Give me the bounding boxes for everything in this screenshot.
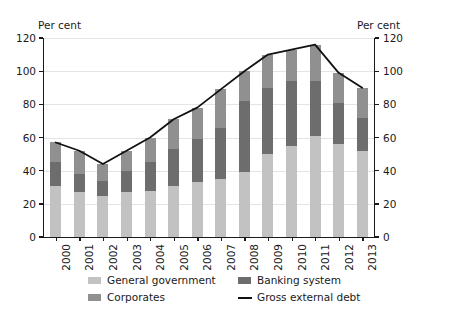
y-axis-tick-label: 60 [23, 133, 36, 144]
y-axis-tick [375, 137, 379, 138]
x-axis-tick [56, 237, 57, 241]
legend-swatch-icon [88, 294, 101, 301]
legend-label: General government [107, 275, 216, 286]
y-axis-left-unit-label: Per cent [38, 19, 81, 31]
y-axis-tick-label: 20 [383, 199, 396, 210]
x-axis-tick-label: 2013 [367, 244, 378, 271]
y-axis-tick-label: 80 [23, 99, 36, 110]
y-axis-tick-label: 40 [383, 166, 396, 177]
x-axis-tick-label: 2005 [179, 244, 190, 271]
x-axis-tick-label: 2000 [61, 244, 72, 271]
y-axis-tick [39, 236, 43, 237]
y-axis-tick [39, 137, 43, 138]
y-axis-tick [375, 37, 379, 38]
legend-label: Banking system [257, 275, 341, 286]
y-axis-tick-label: 80 [383, 99, 396, 110]
y-axis-tick-label: 20 [23, 199, 36, 210]
x-axis-tick [103, 237, 104, 241]
x-axis-tick-label: 2006 [202, 244, 213, 271]
x-axis-tick [315, 237, 316, 241]
x-axis-tick [174, 237, 175, 241]
y-axis-tick-label: 0 [383, 232, 390, 243]
legend-label: Gross external debt [257, 292, 360, 303]
x-axis-tick [221, 237, 222, 241]
x-axis-tick [197, 237, 198, 241]
legend-swatch-icon [88, 277, 101, 284]
x-axis-tick-label: 2010 [297, 244, 308, 271]
legend-line-icon [238, 297, 252, 299]
y-axis-tick [375, 71, 379, 72]
y-axis-tick [39, 170, 43, 171]
x-axis [43, 237, 375, 238]
legend-item[interactable]: Banking system [238, 272, 418, 289]
y-axis-tick [39, 104, 43, 105]
y-axis-tick [375, 203, 379, 204]
x-axis-tick-label: 2012 [344, 244, 355, 271]
y-axis-tick [39, 203, 43, 204]
y-axis-tick-label: 100 [383, 66, 403, 77]
chart-container: Per cent Per cent 0020204040606080801001… [0, 0, 451, 318]
chart-legend: General governmentBanking systemCorporat… [88, 272, 418, 306]
y-axis-tick-label: 120 [383, 33, 403, 44]
y-axis-tick [39, 37, 43, 38]
legend-label: Corporates [107, 292, 165, 303]
x-axis-tick [292, 237, 293, 241]
x-axis-tick-label: 2009 [273, 244, 284, 271]
x-axis-tick-label: 2007 [226, 244, 237, 271]
y-axis-tick [39, 71, 43, 72]
legend-item[interactable]: Gross external debt [238, 289, 418, 306]
y-axis-tick-label: 60 [383, 133, 396, 144]
y-axis-tick [375, 104, 379, 105]
x-axis-tick [244, 237, 245, 241]
x-axis-tick [362, 237, 363, 241]
x-axis-tick [79, 237, 80, 241]
legend-item[interactable]: General government [88, 272, 238, 289]
x-axis-tick [150, 237, 151, 241]
y-axis-tick [375, 236, 379, 237]
y-axis-tick-label: 120 [16, 33, 36, 44]
x-axis-tick-label: 2004 [155, 244, 166, 271]
x-axis-tick [339, 237, 340, 241]
x-axis-tick-label: 2011 [320, 244, 331, 271]
y-axis-tick-label: 0 [29, 232, 36, 243]
x-axis-tick [127, 237, 128, 241]
gross-external-debt-line [44, 38, 374, 237]
y-axis-tick-label: 40 [23, 166, 36, 177]
y-axis-tick [375, 170, 379, 171]
x-axis-tick-label: 2001 [84, 244, 95, 271]
plot-area: Per cent Per cent 0020204040606080801001… [44, 38, 374, 237]
legend-item[interactable]: Corporates [88, 289, 238, 306]
x-axis-tick [268, 237, 269, 241]
x-axis-tick-label: 2008 [249, 244, 260, 271]
y-axis-tick-label: 100 [16, 66, 36, 77]
legend-swatch-icon [238, 277, 251, 284]
y-axis-right-unit-label: Per cent [357, 19, 400, 31]
x-axis-tick-label: 2002 [108, 244, 119, 271]
x-axis-tick-label: 2003 [132, 244, 143, 271]
line-path [56, 45, 362, 164]
